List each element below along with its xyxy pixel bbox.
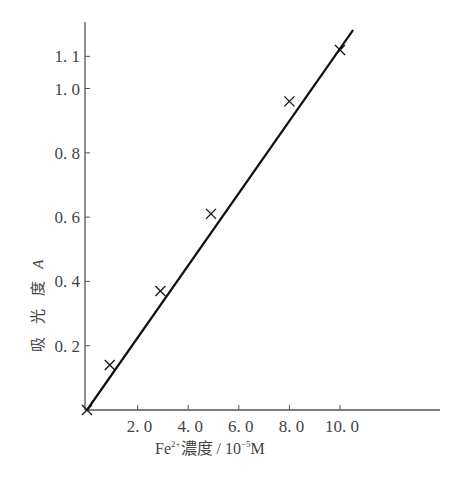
fit-line xyxy=(87,31,353,410)
axes xyxy=(85,22,440,410)
y-axis-title: 吸 光 度 A xyxy=(20,232,50,392)
x-axis-title-prefix: Fe xyxy=(155,440,171,457)
fit-line-path xyxy=(87,31,353,410)
x-marker-icon xyxy=(155,286,165,296)
x-marker-icon xyxy=(105,360,115,370)
y-tick-label: 1. 1 xyxy=(55,47,81,66)
x-marker-icon xyxy=(335,45,345,55)
ticks: 2. 04. 06. 08. 010. 00. 20. 40. 60. 81. … xyxy=(55,47,360,436)
x-axis-title-middle: 濃度 / 10 xyxy=(181,440,241,457)
y-tick-label: 0. 4 xyxy=(55,272,81,291)
chart-canvas: 2. 04. 06. 08. 010. 00. 20. 40. 60. 81. … xyxy=(0,0,459,481)
y-tick-label: 0. 2 xyxy=(55,337,81,356)
x-axis-title-charge: 2+ xyxy=(171,439,181,449)
y-axis-title-text: 吸 光 度 xyxy=(29,277,47,352)
x-tick-label: 6. 0 xyxy=(228,417,254,436)
x-tick-label: 4. 0 xyxy=(177,417,203,436)
x-axis-title: Fe2+濃度 / 10−5M xyxy=(155,435,265,459)
y-tick-label: 1. 0 xyxy=(55,80,81,99)
x-axis-title-unit: M xyxy=(251,440,265,457)
y-axis-title-symbol: A xyxy=(30,256,46,269)
x-tick-label: 2. 0 xyxy=(127,417,153,436)
x-tick-label: 10. 0 xyxy=(325,417,359,436)
y-tick-label: 0. 8 xyxy=(55,144,81,163)
y-tick-label: 0. 6 xyxy=(55,208,81,227)
x-marker-icon xyxy=(206,209,216,219)
x-tick-label: 8. 0 xyxy=(279,417,305,436)
x-marker-icon xyxy=(284,96,294,106)
x-axis-title-exponent: −5 xyxy=(241,439,251,449)
